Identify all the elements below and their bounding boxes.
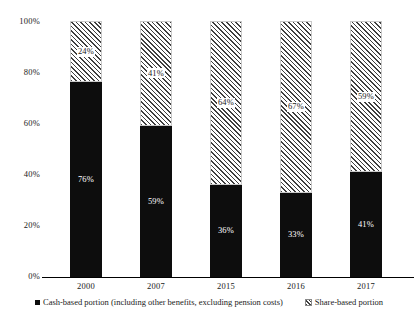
bar-value-label-share-2017: 59% [357, 92, 375, 102]
y-axis-tick-40: 40% [2, 170, 40, 179]
stacked-bar-chart: 100% 80% 60% 40% 20% 0% 24% 76% 41% 59% [0, 0, 418, 314]
x-axis-tick-2015: 2015 [191, 281, 261, 291]
x-axis-tick-2017: 2017 [331, 281, 401, 291]
bar-value-label-cash-2015: 36% [218, 226, 234, 235]
bar-value-label-share-2015: 64% [217, 98, 235, 108]
bar-segment-share-2017[interactable]: 59% [350, 21, 382, 172]
legend-item-cash-based: Cash-based portion (including other bene… [35, 297, 283, 308]
bar-segment-cash-2007[interactable]: 59% [140, 126, 172, 277]
y-axis-tick-60: 60% [2, 119, 40, 128]
x-axis-tick-2000: 2000 [51, 281, 121, 291]
y-axis: 100% 80% 60% 40% 20% 0% [0, 0, 40, 314]
legend-item-share-based: Share-based portion [305, 297, 383, 308]
bar-value-label-share-2016: 67% [287, 102, 305, 112]
bar-group-2017[interactable]: 59% 41% [350, 21, 382, 277]
solid-black-square-icon [35, 300, 40, 305]
bar-segment-share-2015[interactable]: 64% [210, 21, 242, 185]
bar-group-2000[interactable]: 24% 76% [70, 21, 102, 277]
bar-segment-share-2000[interactable]: 24% [70, 21, 102, 82]
bar-value-label-cash-2017: 41% [358, 220, 374, 229]
bar-value-label-cash-2007: 59% [148, 197, 164, 206]
bar-value-label-cash-2000: 76% [78, 175, 94, 184]
bar-segment-cash-2015[interactable]: 36% [210, 185, 242, 277]
plot-area: 24% 76% 41% 59% 64% 36% [42, 21, 414, 277]
y-axis-tick-0: 0% [2, 272, 40, 281]
y-axis-tick-80: 80% [2, 68, 40, 77]
x-axis-tick-2016: 2016 [261, 281, 331, 291]
bar-value-label-share-2007: 41% [147, 68, 165, 78]
bar-segment-cash-2017[interactable]: 41% [350, 172, 382, 277]
chart-legend: Cash-based portion (including other bene… [0, 297, 418, 308]
bar-value-label-share-2000: 24% [77, 47, 95, 57]
y-axis-tick-20: 20% [2, 221, 40, 230]
y-axis-tick-100: 100% [2, 17, 40, 26]
legend-label-share-based: Share-based portion [315, 297, 383, 308]
bar-group-2015[interactable]: 64% 36% [210, 21, 242, 277]
bar-segment-cash-2016[interactable]: 33% [280, 193, 312, 277]
x-axis-line [42, 277, 414, 278]
bar-segment-share-2007[interactable]: 41% [140, 21, 172, 126]
x-axis-tick-2007: 2007 [121, 281, 191, 291]
legend-label-cash-based: Cash-based portion (including other bene… [43, 297, 283, 308]
bar-value-label-cash-2016: 33% [288, 230, 304, 239]
bar-segment-share-2016[interactable]: 67% [280, 21, 312, 193]
bar-group-2016[interactable]: 67% 33% [280, 21, 312, 277]
bar-segment-cash-2000[interactable]: 76% [70, 82, 102, 277]
hatched-square-icon [305, 299, 312, 306]
bar-group-2007[interactable]: 41% 59% [140, 21, 172, 277]
